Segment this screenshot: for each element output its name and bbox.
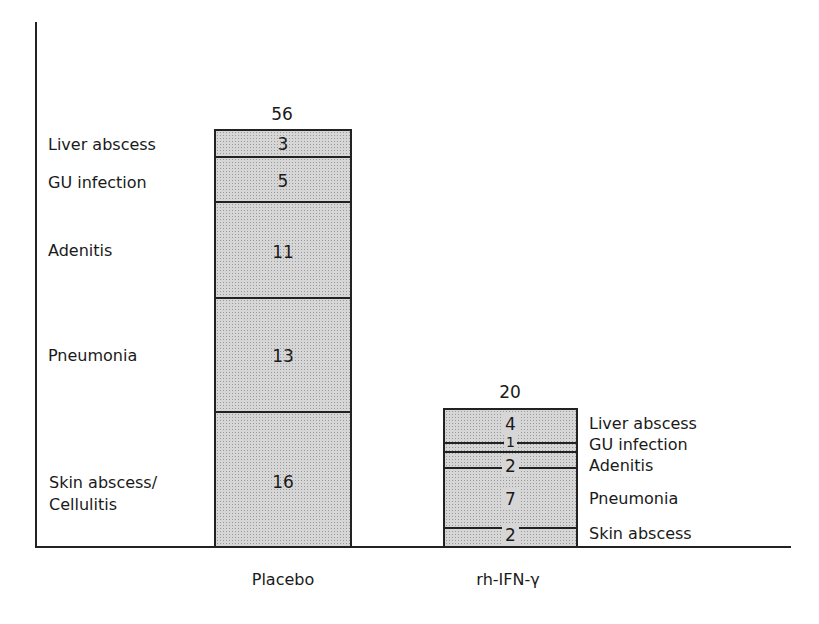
placebo-total: 56 xyxy=(252,104,312,124)
ifn-label-liver: Liver abscess xyxy=(589,414,697,434)
placebo-bar: 3 5 11 13 16 xyxy=(214,129,352,548)
ifn-label-pneumonia: Pneumonia xyxy=(589,489,678,509)
placebo-label-liver: Liver abscess xyxy=(48,135,156,155)
placebo-label-adenitis: Adenitis xyxy=(48,241,112,261)
ifn-label-gu: GU infection xyxy=(589,435,688,455)
ifn-label-skin: Skin abscess xyxy=(589,524,692,544)
placebo-label-skin-line1: Skin abscess/ xyxy=(49,473,157,493)
segment-divider xyxy=(216,411,350,413)
segment-divider xyxy=(216,297,350,299)
placebo-adenitis-value: 11 xyxy=(216,242,350,262)
ifn-total: 20 xyxy=(480,382,540,402)
ifn-skin-value: 2 xyxy=(445,525,576,545)
placebo-gu-value: 5 xyxy=(216,171,350,191)
placebo-liver-value: 3 xyxy=(216,134,350,154)
segment-divider xyxy=(216,156,350,158)
placebo-label-gu: GU infection xyxy=(48,173,147,193)
ifn-gu-value: 1 xyxy=(445,434,576,450)
segment-divider xyxy=(445,451,576,453)
ifn-pneumonia-value: 7 xyxy=(445,489,576,509)
ifn-bar: 4 1 2 7 2 xyxy=(443,408,578,548)
ifn-label-adenitis: Adenitis xyxy=(589,456,653,476)
placebo-skin-value: 16 xyxy=(216,472,350,492)
x-label-ifn: rh-IFN-γ xyxy=(438,570,578,589)
placebo-label-skin-line2: Cellulitis xyxy=(49,495,117,515)
segment-divider xyxy=(216,201,350,203)
x-axis-line xyxy=(35,546,791,548)
placebo-label-pneumonia: Pneumonia xyxy=(48,346,137,366)
x-label-placebo: Placebo xyxy=(213,570,353,589)
placebo-pneumonia-value: 13 xyxy=(216,346,350,366)
ifn-liver-value: 4 xyxy=(445,414,576,434)
y-axis-line xyxy=(35,22,37,548)
ifn-adenitis-value: 2 xyxy=(445,456,576,476)
